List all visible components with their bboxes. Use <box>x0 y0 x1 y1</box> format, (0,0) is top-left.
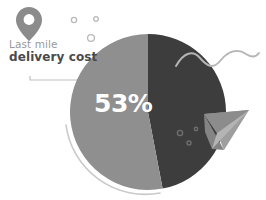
paper-plane-icon <box>204 110 249 150</box>
decorative-dot-icon <box>94 17 99 22</box>
label-block: Last mile delivery cost <box>9 38 105 64</box>
pie-percent-label: 53% <box>94 89 152 118</box>
decorative-dot-icon <box>71 17 76 22</box>
pie-slice-other[interactable] <box>148 34 226 189</box>
infographic-canvas: Last mile delivery cost 53% <box>0 0 266 200</box>
label-line-primary: Last mile <box>9 38 105 50</box>
label-line-secondary: delivery cost <box>9 50 105 64</box>
map-pin-icon <box>14 6 44 42</box>
